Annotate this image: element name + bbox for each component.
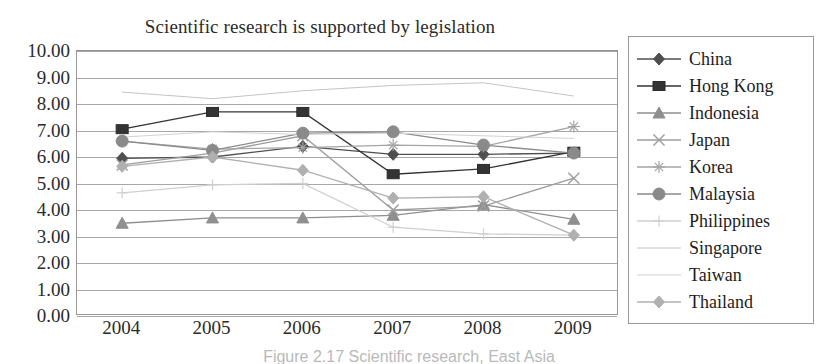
y-axis-tick-6.00: 6.00 — [37, 147, 70, 166]
legend-label: Korea — [689, 158, 733, 176]
legend-label: Philippines — [689, 212, 770, 230]
data-point-hong-kong-2005 — [207, 107, 219, 116]
data-point-thailand-2007 — [388, 192, 399, 204]
legend-label: Thailand — [689, 293, 753, 311]
legend-marker-star-icon — [635, 157, 683, 177]
y-axis: 10.009.008.007.006.005.004.003.002.001.0… — [0, 42, 74, 326]
data-point-thailand-2006 — [297, 164, 308, 176]
data-point-philippines-2007 — [388, 222, 399, 233]
y-axis-tick-7.00: 7.00 — [37, 121, 70, 140]
series-line-singapore — [122, 83, 574, 99]
legend-marker-square-icon — [635, 76, 683, 96]
data-point-philippines-2005 — [207, 179, 218, 190]
legend-item-hong-kong[interactable]: Hong Kong — [635, 72, 813, 99]
x-axis-tick-2005: 2005 — [193, 318, 231, 337]
legend-marker-triangle-icon — [635, 103, 683, 123]
legend-marker-plus-icon — [635, 211, 683, 231]
y-axis-tick-10.00: 10.00 — [27, 41, 70, 60]
legend-item-singapore[interactable]: Singapore — [635, 234, 813, 261]
legend-item-indonesia[interactable]: Indonesia — [635, 99, 813, 126]
chart-title: Scientific research is supported by legi… — [60, 16, 580, 38]
legend-label: Japan — [689, 131, 730, 149]
data-point-korea-2009 — [568, 121, 580, 133]
legend-label: Malaysia — [689, 185, 755, 203]
y-axis-tick-0.00: 0.00 — [37, 306, 70, 325]
legend-marker-none-icon — [635, 265, 683, 285]
data-point-philippines-2008 — [478, 228, 489, 239]
y-axis-tick-8.00: 8.00 — [37, 94, 70, 113]
data-point-malaysia-2004 — [116, 135, 128, 147]
legend-item-malaysia[interactable]: Malaysia — [635, 180, 813, 207]
y-axis-tick-3.00: 3.00 — [37, 227, 70, 246]
data-point-hong-kong-2006 — [297, 107, 309, 116]
x-axis: 200420052006200720082009 — [76, 318, 618, 346]
x-axis-tick-2004: 2004 — [102, 318, 140, 337]
data-point-korea-2006 — [297, 142, 309, 154]
data-point-malaysia-2009 — [568, 147, 580, 159]
legend-item-korea[interactable]: Korea — [635, 153, 813, 180]
y-axis-tick-4.00: 4.00 — [37, 200, 70, 219]
legend-label: Hong Kong — [689, 77, 774, 95]
data-point-hong-kong-2004 — [116, 125, 128, 134]
data-point-hong-kong-2007 — [387, 170, 399, 179]
legend-item-japan[interactable]: Japan — [635, 126, 813, 153]
series-line-hong-kong — [122, 112, 574, 174]
plot-area — [76, 50, 618, 315]
legend-item-china[interactable]: China — [635, 45, 813, 72]
legend-marker-circle-icon — [635, 184, 683, 204]
data-point-hong-kong-2008 — [478, 164, 490, 173]
legend-item-taiwan[interactable]: Taiwan — [635, 261, 813, 288]
data-point-malaysia-2008 — [478, 139, 490, 151]
legend-marker-diamond-icon — [635, 292, 683, 312]
x-axis-tick-2009: 2009 — [554, 318, 592, 337]
series-line-thailand — [122, 157, 574, 235]
legend-marker-x-icon — [635, 130, 683, 150]
legend-label: China — [689, 50, 732, 68]
chart-legend: ChinaHong KongIndonesiaJapanKoreaMalaysi… — [628, 36, 814, 324]
data-point-malaysia-2006 — [297, 127, 309, 139]
data-point-malaysia-2007 — [387, 126, 399, 138]
series-lines — [77, 51, 619, 316]
gridline — [77, 316, 617, 317]
series-line-philippines — [122, 184, 574, 236]
data-point-philippines-2004 — [117, 187, 128, 198]
data-point-korea-2007 — [387, 139, 399, 151]
legend-label: Indonesia — [689, 104, 759, 122]
legend-marker-none-icon — [635, 238, 683, 258]
figure-caption: Figure 2.17 Scientific research, East As… — [0, 348, 818, 364]
chart-page: Scientific research is supported by legi… — [0, 0, 818, 364]
series-line-indonesia — [122, 205, 574, 224]
data-point-thailand-2008 — [478, 191, 489, 203]
x-axis-tick-2006: 2006 — [283, 318, 321, 337]
legend-item-philippines[interactable]: Philippines — [635, 207, 813, 234]
data-point-philippines-2006 — [297, 178, 308, 189]
legend-item-thailand[interactable]: Thailand — [635, 288, 813, 315]
y-axis-tick-2.00: 2.00 — [37, 253, 70, 272]
data-point-japan-2009 — [568, 173, 579, 184]
y-axis-tick-1.00: 1.00 — [37, 280, 70, 299]
series-line-korea — [122, 127, 574, 150]
y-axis-tick-9.00: 9.00 — [37, 68, 70, 87]
data-point-thailand-2009 — [568, 229, 579, 241]
x-axis-tick-2008: 2008 — [464, 318, 502, 337]
legend-label: Singapore — [689, 239, 762, 257]
y-axis-tick-5.00: 5.00 — [37, 174, 70, 193]
legend-label: Taiwan — [689, 266, 742, 284]
x-axis-tick-2007: 2007 — [373, 318, 411, 337]
legend-marker-diamond-icon — [635, 49, 683, 69]
